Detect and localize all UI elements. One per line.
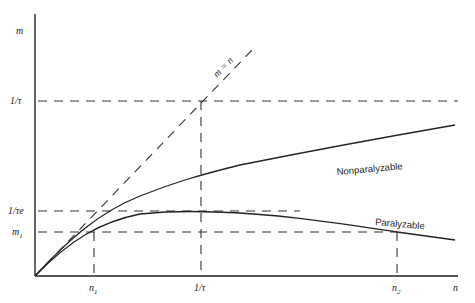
identity-line — [35, 49, 253, 276]
x-tick-n1: n1 — [89, 282, 98, 296]
nonparalyzable-label: Nonparalyzable — [336, 160, 403, 177]
y-axis-label: m — [16, 25, 23, 36]
x-tick-n2: n2 — [392, 282, 401, 296]
y-tick-inv-tau: 1/τ — [10, 95, 22, 106]
paralyzable-label: Paralyzable — [375, 216, 425, 231]
nonparalyzable-curve — [35, 125, 455, 276]
dead-time-diagram: m n m = n Nonparalyzable Paralyzable 1/τ… — [0, 0, 475, 303]
identity-line-label: m = n — [211, 54, 236, 79]
y-tick-m1: m1 — [12, 226, 23, 240]
y-tick-inv-tau-e: 1/τe — [8, 205, 24, 216]
x-axis-label: n — [453, 282, 458, 293]
x-tick-inv-tau: 1/τ — [194, 282, 206, 293]
